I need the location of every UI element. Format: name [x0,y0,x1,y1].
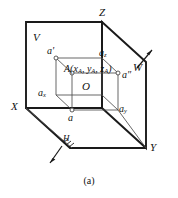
plane-label-h: H [63,134,70,143]
marker-a-prime [54,56,58,60]
axis-point-ay-sub: y [124,107,127,114]
axis-label-x: X [11,101,18,112]
arrow-h-direction [50,146,62,163]
projection-figure: X Y Z V W H O a' a″ a ax ay az A(xA, yA,… [0,0,178,198]
point-a-close: ) [108,63,111,74]
w-plane-outline [102,22,146,148]
plane-label-v: V [33,32,40,43]
axis-point-ax-sub: x [43,91,46,98]
point-a-open: A(x [64,63,78,74]
axis-point-ay: ay [119,104,127,115]
axis-label-z: Z [99,7,105,18]
h-plane-traces [26,108,146,148]
axis-point-az-sub: z [104,51,107,58]
h-plane-outline [26,108,146,148]
plane-label-w: W [133,62,142,73]
axis-point-az: az [99,48,107,59]
point-a-mid1: , y [82,63,91,74]
origin-label: O [82,81,90,92]
projection-label-a-prime: a' [47,46,54,56]
point-a-mid2: , z [95,63,104,74]
axis-label-y: Y [150,142,156,153]
edge-O-ay [102,95,118,110]
axis-point-ax: ax [38,88,46,99]
point-a-coordinates: A(xA, yA, zA) [64,64,112,75]
projection-label-a-double-prime: a″ [122,70,131,80]
figure-caption: (a) [0,175,178,186]
projection-drawing [0,0,178,198]
trace-ay-to-y [118,110,146,148]
marker-a-double-prime [116,71,120,75]
projection-label-a: a [68,113,73,123]
